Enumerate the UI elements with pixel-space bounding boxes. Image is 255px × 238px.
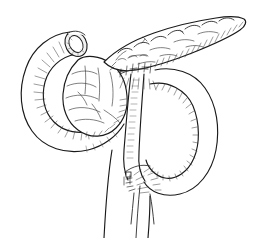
anatomical-illustration [0,0,255,238]
illustration-canvas [0,0,255,238]
